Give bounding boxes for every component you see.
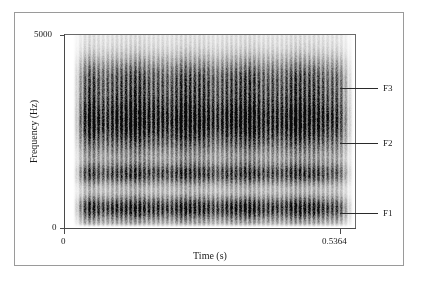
spectrogram-image (64, 35, 355, 228)
x-axis-line (64, 228, 356, 229)
formant-leader-line-f2 (340, 143, 378, 144)
y-axis-title: Frequency (Hz) (28, 77, 39, 187)
formant-label-f1: F1 (383, 207, 393, 219)
spectrogram-plot-area (64, 35, 355, 228)
formant-label-f2: F2 (383, 137, 393, 149)
x-axis-tick-min (64, 229, 65, 234)
formant-leader-line-f1 (340, 213, 378, 214)
x-axis-title: Time (s) (64, 250, 356, 261)
x-axis-tick-label-min: 0 (61, 237, 66, 246)
plot-frame-right (355, 34, 356, 229)
plot-frame-top (64, 34, 356, 35)
formant-leader-line-f3 (340, 88, 378, 89)
spectrogram-figure: 5000 0 0 0.5364 Frequency (Hz) Time (s) … (0, 0, 422, 282)
y-axis-tick-label-min: 0 (52, 223, 57, 232)
y-axis-line (64, 34, 65, 229)
formant-label-f3: F3 (383, 82, 393, 94)
y-axis-tick-label-max: 5000 (34, 30, 52, 39)
y-axis-tick-max (60, 35, 65, 36)
x-axis-tick-max (340, 229, 341, 234)
x-axis-tick-label-max: 0.5364 (322, 237, 347, 246)
